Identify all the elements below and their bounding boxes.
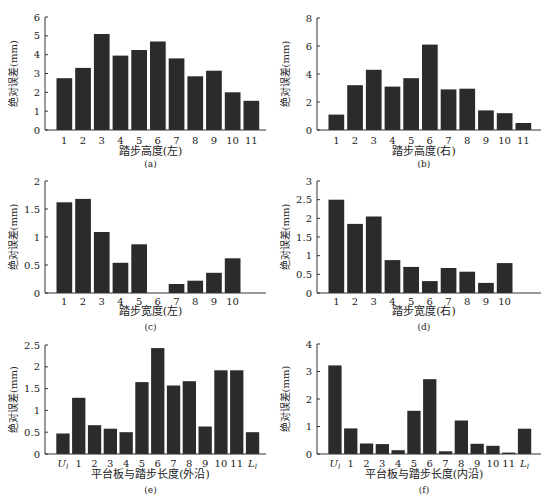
x-tick-label: 3 [371,296,377,307]
bar [478,283,494,293]
x-tick-label: 8 [192,296,198,307]
bar [497,113,513,130]
bar [120,432,133,454]
bar [206,273,222,293]
x-tick-label: Ll [519,458,529,471]
bar [56,434,69,455]
x-tick-label: 1 [61,135,67,146]
bar [75,199,91,293]
x-axis-label: 踏步宽度(左) [119,304,183,318]
y-tick-label: 2 [34,87,40,98]
bar [423,379,436,454]
x-tick-label: 10 [498,296,511,307]
x-tick-label: 10 [215,458,228,469]
x-tick-label: 2 [352,296,358,307]
bar [497,263,513,293]
bar [169,58,185,130]
x-tick-label: 1 [333,135,339,146]
y-tick-label: 2 [34,361,40,372]
panel-caption: (a) [144,159,156,168]
bar [206,71,222,130]
bar [57,202,73,293]
bar [329,115,345,130]
bar [75,68,91,130]
y-tick-label: 1 [306,421,312,432]
bar [113,263,129,293]
bar [422,45,438,130]
bar [225,258,241,293]
bar [366,70,382,130]
plot-area: Ul1234567891011Ll00.511.522.5绝对误差(mm)平台板… [7,340,266,496]
x-tick-label: 2 [352,135,358,146]
y-axis-label: 绝对误差(mm) [279,204,291,271]
bar [199,427,212,455]
y-axis-label: 绝对误差(mm) [279,366,291,433]
bar [104,429,117,454]
bar [347,224,363,293]
bar [167,386,180,455]
bar [187,76,203,130]
y-axis-label: 绝对误差(mm) [7,40,19,107]
chart-panel-c: 1234567891000.511.52绝对误差(mm)踏步宽度(左)(c) [0,168,275,336]
x-tick-label: 8 [464,296,470,307]
plot-area: 12345678910110123456绝对误差(mm)踏步高度(左)(a) [7,12,266,169]
x-tick-label: Ll [247,458,257,471]
y-tick-label: 0 [306,449,312,460]
panel-caption: (b) [418,159,431,168]
x-tick-label: Ul [330,458,341,471]
bar [214,370,227,454]
bar [366,217,382,294]
bar [328,365,341,454]
bar [151,348,164,454]
x-tick-label: 2 [80,135,86,146]
x-axis-label: 踏步高度(左) [119,144,183,158]
x-tick-label: 3 [371,135,377,146]
plot-area: 1234567891000.511.522.53绝对误差(mm)踏步宽度(右)(… [279,176,541,333]
y-axis-label: 绝对误差(mm) [7,366,19,433]
x-tick-label: 11 [517,135,530,146]
y-tick-label: 0 [306,125,312,136]
y-tick-label: 2 [306,213,312,224]
x-axis-label: 踏步宽度(右) [392,304,456,318]
y-tick-label: 2 [34,176,40,187]
y-tick-label: 2 [306,97,312,108]
plot-area: Ul1234567891011Ll01234绝对误差(mm)平台板与踏步长度(内… [279,339,541,496]
y-tick-label: 2.5 [296,194,312,205]
x-tick-label: 11 [245,135,258,146]
chart-panel-a: 12345678910110123456绝对误差(mm)踏步高度(左)(a) [0,0,275,168]
x-tick-label: 11 [502,458,515,469]
plot-area: 1234567891000.511.52绝对误差(mm)踏步宽度(左)(c) [7,176,266,333]
panel-caption: (f) [419,485,429,495]
plot-area: 123456789101102468绝对误差(mm)踏步高度(右)(b) [279,13,541,169]
x-tick-label: Ul [58,458,69,471]
y-tick-label: 1 [306,250,312,261]
bar [516,123,532,130]
bar [347,85,363,130]
bar [135,382,148,454]
x-tick-label: 3 [99,135,105,146]
y-tick-label: 4 [306,339,312,350]
y-tick-label: 0.5 [24,427,40,438]
y-tick-label: 4 [34,49,40,60]
y-tick-label: 1 [34,405,40,416]
y-axis-label: 绝对误差(mm) [279,41,291,108]
bar [455,421,468,455]
bar [407,411,420,454]
panel-caption: (d) [418,322,431,332]
y-tick-label: 2.5 [24,340,40,351]
x-axis-label: 踏步高度(右) [392,144,456,158]
chart-panel-d: 1234567891000.511.522.53绝对误差(mm)踏步宽度(右)(… [275,168,550,336]
x-tick-label: 1 [61,296,67,307]
chart-panel-f: Ul1234567891011Ll01234绝对误差(mm)平台板与踏步长度(内… [275,336,550,504]
y-tick-label: 2 [306,394,312,405]
bar [422,281,438,293]
y-tick-label: 0 [34,449,40,460]
x-tick-label: 8 [464,135,470,146]
bar [360,444,373,455]
bar [471,444,484,454]
y-tick-label: 6 [306,41,312,52]
x-tick-label: 10 [226,296,239,307]
y-tick-label: 1.5 [24,383,40,394]
y-tick-label: 4 [306,69,312,80]
bar [94,34,110,130]
